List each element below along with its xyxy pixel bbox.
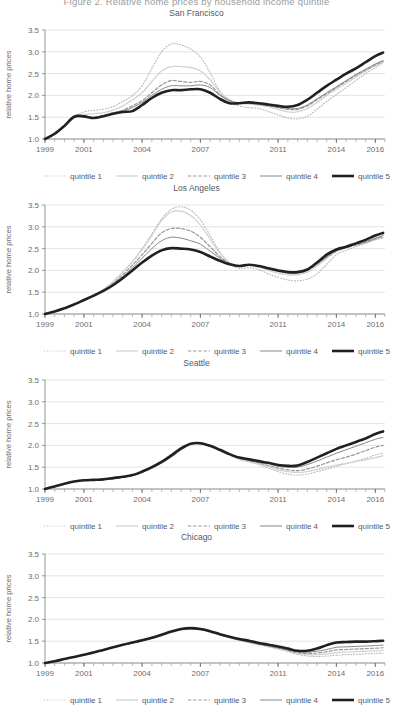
x-tick-label: 2011 (269, 669, 287, 678)
y-tick-label: 2.0 (28, 441, 40, 450)
legend-label-quintile-3[interactable]: quintile 3 (214, 347, 247, 356)
x-tick-label: 2014 (328, 320, 346, 329)
series-line-quintile-1 (45, 207, 383, 314)
legend-label-quintile-3[interactable]: quintile 3 (214, 172, 247, 181)
legend-label-quintile-1[interactable]: quintile 1 (70, 172, 103, 181)
x-tick-label: 1999 (36, 145, 54, 154)
legend-label-quintile-2[interactable]: quintile 2 (142, 522, 175, 531)
series-line-quintile-4 (45, 61, 383, 139)
x-tick-label: 2004 (133, 145, 151, 154)
x-tick-label: 2007 (192, 145, 210, 154)
y-tick-label: 1.5 (28, 463, 40, 472)
x-tick-label: 1999 (36, 495, 54, 504)
x-tick-label: 2007 (192, 495, 210, 504)
series-line-quintile-4 (45, 236, 383, 314)
chart-panel-los-angeles: Los Angeles1.01.52.02.53.03.519992001200… (0, 183, 393, 358)
series-line-quintile-2 (45, 211, 383, 314)
legend-label-quintile-2[interactable]: quintile 2 (142, 347, 175, 356)
legend-label-quintile-4[interactable]: quintile 4 (286, 172, 319, 181)
y-axis-title: relative home prices (4, 50, 13, 118)
legend: quintile 1quintile 2quintile 3quintile 4… (0, 693, 393, 707)
legend-label-quintile-5[interactable]: quintile 5 (358, 172, 391, 181)
panel-plot: 1.01.52.02.53.03.51999200120042007201120… (0, 183, 393, 358)
y-tick-label: 2.0 (28, 91, 40, 100)
x-tick-label: 2007 (192, 320, 210, 329)
x-tick-label: 2014 (328, 669, 346, 678)
panel-title: Chicago (0, 532, 393, 542)
panel-plot: 1.01.52.02.53.03.51999200120042007201120… (0, 358, 393, 533)
y-tick-label: 3.5 (28, 26, 40, 35)
x-tick-label: 2014 (328, 145, 346, 154)
y-tick-label: 3.0 (28, 48, 40, 57)
x-tick-label: 2004 (133, 495, 151, 504)
panel-title: Los Angeles (0, 183, 393, 193)
y-tick-label: 1.0 (28, 659, 40, 668)
x-tick-label: 1999 (36, 669, 54, 678)
x-tick-label: 2011 (269, 145, 287, 154)
y-tick-label: 2.5 (28, 420, 40, 429)
y-tick-label: 3.0 (28, 223, 40, 232)
series-line-quintile-3 (45, 61, 383, 139)
chart-panel-san-francisco: San Francisco1.01.52.02.53.03.5199920012… (0, 8, 393, 183)
legend-label-quintile-5[interactable]: quintile 5 (358, 347, 391, 356)
x-tick-label: 1999 (36, 320, 54, 329)
y-tick-label: 1.5 (28, 288, 40, 297)
x-tick-label: 2001 (75, 320, 93, 329)
series-line-quintile-5 (45, 53, 383, 139)
legend-label-quintile-1[interactable]: quintile 1 (70, 696, 103, 705)
x-tick-label: 2004 (133, 669, 151, 678)
legend-label-quintile-2[interactable]: quintile 2 (142, 696, 175, 705)
legend-label-quintile-5[interactable]: quintile 5 (358, 696, 391, 705)
y-axis-title: relative home prices (4, 400, 13, 468)
y-tick-label: 1.0 (28, 485, 40, 494)
series-line-quintile-5 (45, 431, 383, 489)
series-line-quintile-3 (45, 228, 383, 314)
y-tick-label: 3.0 (28, 572, 40, 581)
y-tick-label: 2.0 (28, 615, 40, 624)
y-tick-label: 1.0 (28, 310, 40, 319)
y-axis-title: relative home prices (4, 574, 13, 642)
legend: quintile 1quintile 2quintile 3quintile 4… (0, 169, 393, 183)
y-tick-label: 2.5 (28, 245, 40, 254)
legend-label-quintile-2[interactable]: quintile 2 (142, 172, 175, 181)
panel-title: Seattle (0, 358, 393, 368)
panel-plot: 1.01.52.02.53.03.51999200120042007201120… (0, 532, 393, 707)
x-tick-label: 2001 (75, 495, 93, 504)
x-tick-label: 2016 (366, 320, 384, 329)
x-tick-label: 2001 (75, 145, 93, 154)
legend-label-quintile-4[interactable]: quintile 4 (286, 522, 319, 531)
series-line-quintile-5 (45, 628, 383, 663)
chart-panel-chicago: Chicago1.01.52.02.53.03.5199920012004200… (0, 532, 393, 707)
legend-label-quintile-1[interactable]: quintile 1 (70, 347, 103, 356)
y-tick-label: 2.5 (28, 70, 40, 79)
y-tick-label: 2.0 (28, 266, 40, 275)
y-tick-label: 3.5 (28, 550, 40, 559)
legend-label-quintile-3[interactable]: quintile 3 (214, 522, 247, 531)
x-tick-label: 2011 (269, 495, 287, 504)
x-tick-label: 2001 (75, 669, 93, 678)
legend: quintile 1quintile 2quintile 3quintile 4… (0, 344, 393, 358)
legend-label-quintile-4[interactable]: quintile 4 (286, 696, 319, 705)
y-tick-label: 3.0 (28, 398, 40, 407)
series-line-quintile-2 (45, 629, 383, 663)
legend-label-quintile-4[interactable]: quintile 4 (286, 347, 319, 356)
y-tick-label: 1.5 (28, 637, 40, 646)
x-tick-label: 2011 (269, 320, 287, 329)
y-tick-label: 3.5 (28, 376, 40, 385)
panel-plot: 1.01.52.02.53.03.51999200120042007201120… (0, 8, 393, 183)
y-tick-label: 2.5 (28, 594, 40, 603)
y-axis-title: relative home prices (4, 225, 13, 293)
legend-label-quintile-3[interactable]: quintile 3 (214, 696, 247, 705)
panel-title: San Francisco (0, 8, 393, 18)
legend-label-quintile-5[interactable]: quintile 5 (358, 522, 391, 531)
chart-panel-seattle: Seattle1.01.52.02.53.03.5199920012004200… (0, 358, 393, 533)
x-tick-label: 2016 (366, 669, 384, 678)
legend: quintile 1quintile 2quintile 3quintile 4… (0, 519, 393, 533)
x-tick-label: 2004 (133, 320, 151, 329)
legend-label-quintile-1[interactable]: quintile 1 (70, 522, 103, 531)
y-tick-label: 3.5 (28, 201, 40, 210)
x-tick-label: 2016 (366, 495, 384, 504)
x-tick-label: 2014 (328, 495, 346, 504)
figure-suptitle: Figure 2. Relative home prices by househ… (0, 0, 393, 7)
